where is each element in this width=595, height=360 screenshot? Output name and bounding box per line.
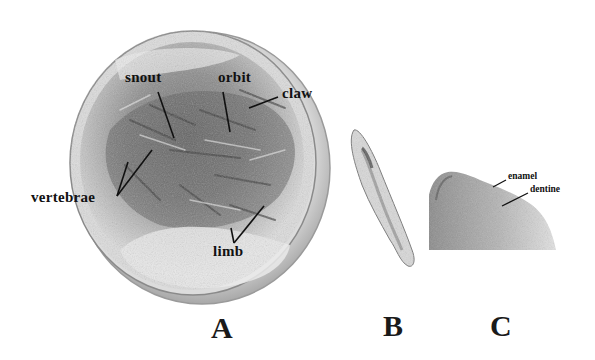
annotation-dentine: dentine [530,185,560,195]
figure: snout orbit claw vertebrae limb enamel d… [0,0,595,360]
panel-letter-b: B [383,311,403,341]
annotation-vertebrae: vertebrae [31,190,95,205]
panel-a-specimen-image [0,0,595,360]
annotation-claw: claw [282,86,312,101]
annotation-enamel: enamel [508,172,537,182]
annotation-limb: limb [213,244,243,259]
annotation-snout: snout [125,70,162,85]
panel-letter-a: A [211,313,233,343]
panel-letter-c: C [490,311,512,341]
annotation-orbit: orbit [218,70,251,85]
panel-b-specimen-image [351,130,414,266]
